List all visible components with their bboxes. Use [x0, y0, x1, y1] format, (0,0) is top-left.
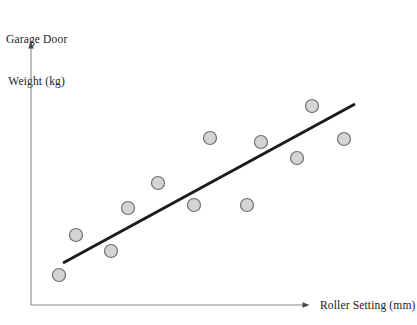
scatter-plot-figure: Garage Door Weight (kg) Roller Setting (… [0, 0, 417, 325]
data-point [152, 177, 165, 190]
data-point [241, 199, 254, 212]
data-point [122, 202, 135, 215]
data-point [255, 136, 268, 149]
data-point [105, 245, 118, 258]
data-point [204, 132, 217, 145]
trend-line [63, 104, 355, 263]
plot-canvas [0, 0, 417, 325]
data-point [291, 152, 304, 165]
data-point [188, 199, 201, 212]
data-point [70, 229, 83, 242]
data-point-group [53, 100, 351, 282]
data-point [338, 133, 351, 146]
axes-group [31, 45, 306, 305]
data-point [306, 100, 319, 113]
data-point [53, 269, 66, 282]
